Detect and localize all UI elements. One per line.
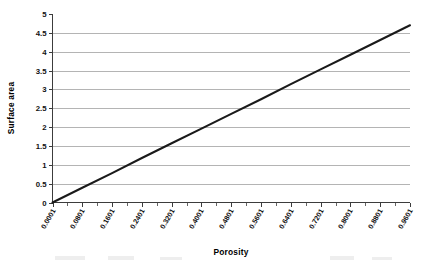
y-tick-label: 3 — [42, 85, 47, 94]
x-tick-label: 0.0001 — [39, 207, 58, 231]
y-tick-label: 0 — [42, 199, 47, 208]
x-tick-label: 0.9601 — [396, 207, 415, 231]
x-tick-label: 0.0801 — [68, 207, 87, 231]
y-tick-label: 2.5 — [36, 104, 48, 113]
y-axis-title: Surface area — [6, 82, 16, 135]
x-tick-label: 0.4001 — [187, 207, 206, 231]
x-tick-label: 0.5601 — [247, 207, 266, 231]
x-axis-title: Porosity — [213, 247, 248, 257]
line-chart: 00.511.522.533.544.55 0.00010.08010.1601… — [0, 0, 440, 269]
y-tick-label: 3.5 — [36, 67, 48, 76]
x-tick-label: 0.6401 — [277, 207, 296, 231]
x-tick-label: 0.1601 — [98, 207, 117, 231]
x-tick-label: 0.8001 — [336, 207, 355, 231]
chart-container: 00.511.522.533.544.55 0.00010.08010.1601… — [0, 0, 440, 269]
x-tick-label: 0.4801 — [217, 207, 236, 231]
y-tick-label: 5 — [42, 10, 47, 19]
y-axis-tick-labels: 00.511.522.533.544.55 — [36, 10, 48, 208]
y-tick-label: 4 — [42, 48, 47, 57]
y-tick-label: 0.5 — [36, 180, 48, 189]
x-tick-label: 0.3201 — [158, 207, 177, 231]
y-tick-label: 4.5 — [36, 29, 48, 38]
x-axis-ticks — [54, 203, 411, 207]
x-tick-label: 0.2401 — [128, 207, 147, 231]
y-tick-label: 1 — [42, 161, 47, 170]
y-tick-label: 2 — [42, 123, 47, 132]
x-tick-label: 0.7201 — [307, 207, 326, 231]
x-axis-tick-labels: 0.00010.08010.16010.24010.32010.40010.48… — [39, 207, 415, 231]
y-tick-label: 1.5 — [36, 142, 48, 151]
x-tick-label: 0.8801 — [366, 207, 385, 231]
